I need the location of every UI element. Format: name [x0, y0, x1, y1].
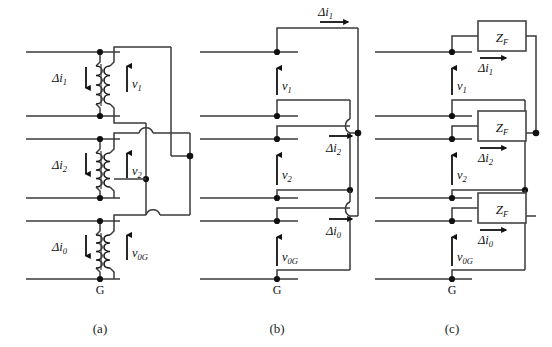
node-c2-top	[449, 136, 455, 142]
panel-caption-a: (a)	[93, 321, 107, 336]
node-a0-ground	[97, 276, 103, 282]
ground-label-c: G	[448, 283, 457, 297]
node-a1-bottom	[97, 113, 103, 119]
node-b2-bottom	[274, 195, 280, 201]
ground-label-b: G	[273, 283, 282, 297]
node-c0-top	[449, 218, 455, 224]
circuit-diagram-svg: Δi1 v1 Δi2 v2	[0, 0, 552, 347]
circuit-figure: Δi1 v1 Δi2 v2	[0, 0, 552, 347]
panel-caption-b: (b)	[269, 321, 284, 336]
node-b2-top	[274, 136, 280, 142]
node-c-common	[533, 130, 540, 137]
node-b1-top	[274, 49, 280, 55]
ground-label-a: G	[96, 283, 105, 297]
node-c1-top	[449, 49, 455, 55]
panel-caption-c: (c)	[445, 321, 459, 336]
node-a1-top	[97, 49, 103, 55]
node-a2-top	[97, 136, 103, 142]
node-b0-ground	[274, 276, 280, 282]
node-a0-top	[97, 218, 103, 224]
node-a-common	[187, 153, 194, 160]
node-a2-bottom	[97, 195, 103, 201]
node-c2-bottom	[449, 195, 455, 201]
node-c1-bottom	[449, 113, 455, 119]
node-b-common	[355, 130, 362, 137]
node-b0-top	[274, 218, 280, 224]
node-b1-bottom	[274, 113, 280, 119]
node-c0-ground	[449, 276, 455, 282]
